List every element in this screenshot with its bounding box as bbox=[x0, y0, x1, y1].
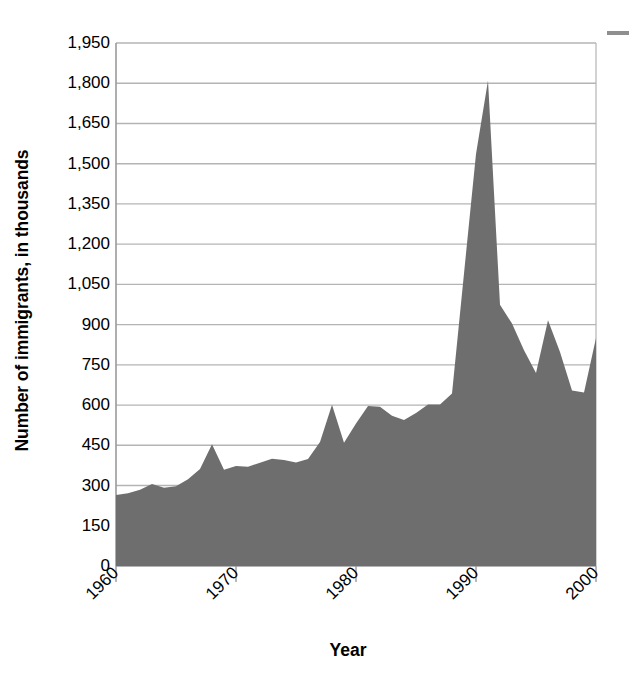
top-right-dash-mark bbox=[607, 31, 629, 35]
area-series bbox=[116, 81, 596, 566]
chart-figure: Number of immigrants, in thousands 1,950… bbox=[0, 0, 630, 680]
x-axis-title-wrapper: Year bbox=[0, 640, 630, 661]
x-axis-title: Year bbox=[330, 640, 367, 660]
